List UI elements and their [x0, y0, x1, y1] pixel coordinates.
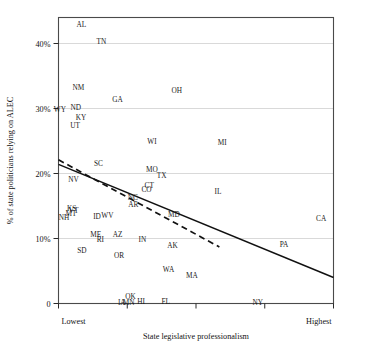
data-point-co: CO — [141, 185, 151, 194]
data-point-ca: CA — [316, 214, 327, 223]
data-point-or: OR — [114, 251, 124, 260]
y-tick-label-20: 20% — [35, 170, 50, 179]
data-point-nd: ND — [71, 103, 82, 112]
y-tick-label-30: 30% — [35, 105, 50, 114]
data-point-mn: MN — [123, 298, 135, 307]
x-axis-title: State legislative professionalism — [143, 332, 250, 341]
data-point-in: IN — [139, 235, 147, 244]
data-point-vt: VT — [69, 206, 79, 215]
data-point-az: AZ — [113, 230, 123, 239]
data-point-ri: RI — [97, 235, 105, 244]
data-point-wy: WY — [54, 105, 67, 114]
data-point-il: IL — [215, 187, 222, 196]
data-point-md: MD — [168, 210, 180, 219]
data-point-ga: GA — [112, 95, 123, 104]
data-point-nh: NH — [59, 213, 70, 222]
data-point-ut: UT — [70, 121, 80, 130]
data-point-nv: NV — [68, 175, 79, 184]
data-point-ma: MA — [186, 271, 198, 280]
data-point-hi: HI — [137, 297, 145, 306]
y-tick-label-10: 10% — [35, 235, 50, 244]
data-point-wi: WI — [147, 137, 157, 146]
x-axis-label-highest: Highest — [306, 317, 332, 326]
data-point-nm: NM — [72, 83, 84, 92]
data-point-ar: AR — [128, 200, 138, 209]
data-point-id: ID — [93, 212, 101, 221]
x-axis-label-lowest: Lowest — [62, 317, 87, 326]
y-tick-label-0: 0 — [46, 300, 50, 309]
local-fit-dashed — [59, 160, 220, 247]
data-point-al: AL — [76, 20, 86, 29]
data-point-sd: SD — [77, 246, 86, 255]
data-point-fl: FL — [161, 297, 170, 306]
data-point-tn: TN — [97, 37, 107, 46]
data-point-oh: OH — [171, 86, 182, 95]
data-point-ak: AK — [167, 241, 178, 250]
scatter-chart: 010%20%30%40%LowestHighestState legislat… — [0, 0, 365, 348]
chart-canvas: 010%20%30%40%LowestHighestState legislat… — [0, 0, 365, 348]
y-tick-label-40: 40% — [35, 40, 50, 49]
data-point-pa: PA — [280, 240, 289, 249]
data-point-wa: WA — [163, 265, 175, 274]
data-point-sc: SC — [94, 159, 103, 168]
data-point-mi: MI — [218, 138, 227, 147]
y-axis-title: % of state politicians relying on ALEC — [6, 96, 15, 224]
data-point-ny: NY — [253, 298, 264, 307]
data-point-wv: WV — [101, 211, 114, 220]
data-point-tx: TX — [157, 171, 167, 180]
